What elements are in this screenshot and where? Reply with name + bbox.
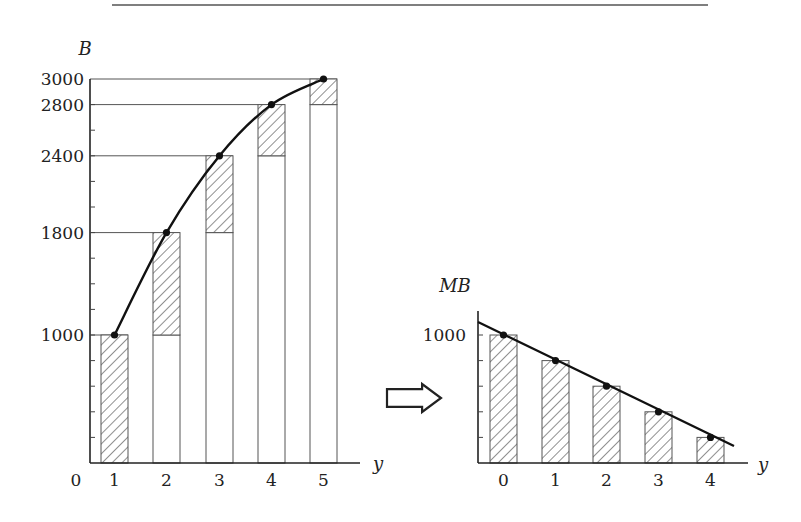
origin-label: 0 xyxy=(71,470,82,490)
x-tick-label: 2 xyxy=(601,470,612,490)
x-tick-label: 3 xyxy=(214,470,225,490)
total-benefit-chart: 10001800240028003000123450By xyxy=(41,38,384,490)
y-tick-label: 1000 xyxy=(41,325,84,345)
mb-bar xyxy=(490,335,517,463)
y-tick-label: 1000 xyxy=(423,325,466,345)
bar-base xyxy=(206,233,233,463)
y-tick-label: 2800 xyxy=(41,95,84,115)
x-tick-label: 2 xyxy=(161,470,172,490)
x-axis-title: y xyxy=(372,453,384,474)
diagram-canvas: 10001800240028003000123450By 100001234MB… xyxy=(0,0,801,522)
bar-increment xyxy=(101,335,128,463)
y-tick-label: 3000 xyxy=(41,69,84,89)
mb-bar xyxy=(645,412,672,463)
bar-base xyxy=(153,335,180,463)
x-tick-label: 3 xyxy=(653,470,664,490)
y-axis-title: MB xyxy=(438,275,471,296)
mb-bar xyxy=(593,386,620,463)
data-point xyxy=(111,331,118,338)
data-point xyxy=(500,331,507,338)
x-tick-label: 4 xyxy=(705,470,716,490)
mb-bar xyxy=(697,437,724,463)
x-tick-label: 0 xyxy=(498,470,509,490)
data-point xyxy=(216,152,223,159)
data-point xyxy=(707,434,714,441)
bar-base xyxy=(310,105,337,463)
marginal-benefit-chart: 100001234MBy xyxy=(423,275,769,490)
x-tick-label: 1 xyxy=(109,470,120,490)
data-point xyxy=(268,101,275,108)
mb-bar xyxy=(542,361,569,463)
x-tick-label: 5 xyxy=(318,470,329,490)
y-tick-label: 2400 xyxy=(41,146,84,166)
data-point xyxy=(552,357,559,364)
y-axis-title: B xyxy=(77,38,91,59)
data-point xyxy=(603,383,610,390)
x-axis-title: y xyxy=(757,454,769,475)
data-point xyxy=(655,408,662,415)
data-point xyxy=(320,75,327,82)
data-point xyxy=(163,229,170,236)
arrow-right-icon xyxy=(387,384,441,412)
x-tick-label: 1 xyxy=(550,470,561,490)
x-tick-label: 4 xyxy=(266,470,277,490)
y-tick-label: 1800 xyxy=(41,223,84,243)
bar-base xyxy=(258,156,285,463)
